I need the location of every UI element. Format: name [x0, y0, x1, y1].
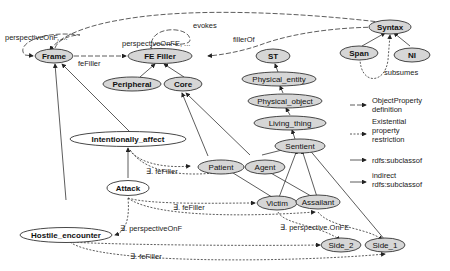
legend-item-indirect-subclassof: indirect rdfs:subclassof — [350, 171, 423, 189]
node-victim[interactable]: Victim — [257, 196, 297, 210]
svg-text:restriction: restriction — [372, 135, 405, 144]
edge-hostile-encounter-frame — [55, 64, 66, 200]
svg-text:Side_1: Side_1 — [373, 241, 398, 250]
edge-span-subclass — [362, 33, 385, 46]
svg-text:ST: ST — [268, 52, 278, 61]
edge-living-thing-subclass — [286, 108, 290, 115]
label-perspective-on-f: perspectiveOnF, ... — [5, 33, 68, 42]
edge-sentient-subclass — [292, 130, 295, 139]
edge-victim-sentient — [278, 150, 297, 200]
svg-text:ObjectProperty: ObjectProperty — [372, 96, 422, 105]
label-evokes: evokes — [193, 21, 217, 30]
svg-text:Patient: Patient — [209, 163, 235, 172]
legend-item-object-property: ObjectProperty definition — [350, 96, 422, 114]
edge-physical-entity-subclass — [275, 64, 278, 72]
node-sentient[interactable]: Sentient — [275, 139, 325, 153]
node-syntax[interactable]: Syntax — [369, 20, 411, 34]
svg-text:definition: definition — [372, 105, 402, 114]
label-perspective-on-fe: perspectiveOnFE, ... — [122, 39, 190, 48]
node-living-thing[interactable]: Living_thing — [254, 116, 326, 130]
label-subsumes: subsumes — [384, 68, 418, 77]
svg-text:property: property — [372, 126, 400, 135]
edge-hostile-side2 — [70, 242, 320, 245]
svg-text:Span: Span — [349, 49, 369, 58]
svg-text:Living_thing: Living_thing — [269, 119, 312, 128]
label-exists-fe-filler-3: ∃. feFiller — [130, 252, 162, 261]
svg-text:Victim: Victim — [266, 199, 288, 208]
edge-core-subclass — [164, 64, 184, 77]
node-ni[interactable]: NI — [394, 48, 430, 62]
label-filler-of: fillerOf — [233, 35, 256, 44]
node-attack[interactable]: Attack — [107, 181, 149, 196]
nodes: Frame FE Filler Peripheral Core Syntax S… — [20, 20, 430, 252]
node-frame[interactable]: Frame — [35, 49, 73, 63]
svg-text:Physical_object: Physical_object — [257, 97, 313, 106]
label-exists-fe-filler-1: ∃. feFiller — [146, 167, 178, 176]
node-side-1[interactable]: Side_1 — [365, 238, 405, 252]
node-hostile-encounter[interactable]: Hostile_encounter — [20, 228, 112, 243]
edge-ni-subclass — [394, 33, 410, 46]
node-intentionally-affect[interactable]: Intentionally_affect — [70, 132, 186, 147]
node-side-2[interactable]: Side_2 — [321, 238, 361, 252]
ontology-diagram: evokes fillerOf perspectiveOnF, ... pers… — [0, 0, 450, 271]
svg-text:indirect: indirect — [372, 171, 397, 180]
node-assailant[interactable]: Assailant — [296, 195, 340, 209]
svg-text:NI: NI — [408, 51, 416, 60]
label-exists-perspective-on-f: ∃. perspectiveOnF — [120, 224, 183, 233]
svg-text:FE Filler: FE Filler — [144, 52, 176, 61]
svg-text:Frame: Frame — [42, 52, 67, 61]
svg-text:rdfs:subclassof: rdfs:subclassof — [372, 156, 423, 165]
svg-text:Attack: Attack — [116, 184, 141, 193]
node-peripheral[interactable]: Peripheral — [103, 77, 161, 91]
svg-text:Side_2: Side_2 — [329, 241, 354, 250]
svg-text:Intentionally_affect: Intentionally_affect — [92, 135, 165, 144]
edge-agent-core — [186, 93, 250, 155]
svg-text:Agent: Agent — [255, 163, 277, 172]
node-core[interactable]: Core — [164, 77, 202, 91]
node-physical-object[interactable]: Physical_object — [248, 94, 322, 108]
node-fe-filler[interactable]: FE Filler — [128, 49, 192, 64]
legend-item-subclassof: rdfs:subclassof — [350, 156, 423, 165]
label-exists-fe-filler-2: ∃. feFiller — [173, 203, 205, 212]
edge-patient-core — [182, 93, 208, 156]
label-fe-filler: feFiller — [78, 59, 101, 68]
edge-physical-object-subclass — [280, 86, 283, 93]
label-exists-perspective-on-fe: ∃. perspective.OnFE — [280, 223, 349, 232]
svg-text:rdfs:subclassof: rdfs:subclassof — [372, 180, 423, 189]
svg-text:Core: Core — [174, 80, 193, 89]
svg-text:Hostile_encounter: Hostile_encounter — [31, 231, 101, 240]
legend-item-existential: Existential property restriction — [350, 117, 407, 144]
node-agent[interactable]: Agent — [245, 160, 285, 174]
svg-text:Assailant: Assailant — [302, 198, 335, 207]
svg-text:Peripheral: Peripheral — [112, 80, 151, 89]
edge-evokes — [50, 12, 403, 50]
node-span[interactable]: Span — [340, 46, 378, 60]
node-st[interactable]: ST — [256, 49, 290, 63]
edge-intentionally-affect-frame — [62, 64, 130, 132]
node-patient[interactable]: Patient — [198, 160, 244, 174]
svg-text:Sentient: Sentient — [285, 142, 315, 151]
node-physical-entity[interactable]: Physical_entity — [242, 72, 316, 86]
edge-peripheral-subclass — [140, 64, 155, 77]
svg-text:Syntax: Syntax — [377, 23, 404, 32]
edge-ia-patient — [130, 150, 190, 167]
svg-text:Existential: Existential — [372, 117, 407, 126]
svg-text:Physical_entity: Physical_entity — [252, 75, 305, 84]
legend: ObjectProperty definition Existential pr… — [350, 96, 423, 189]
